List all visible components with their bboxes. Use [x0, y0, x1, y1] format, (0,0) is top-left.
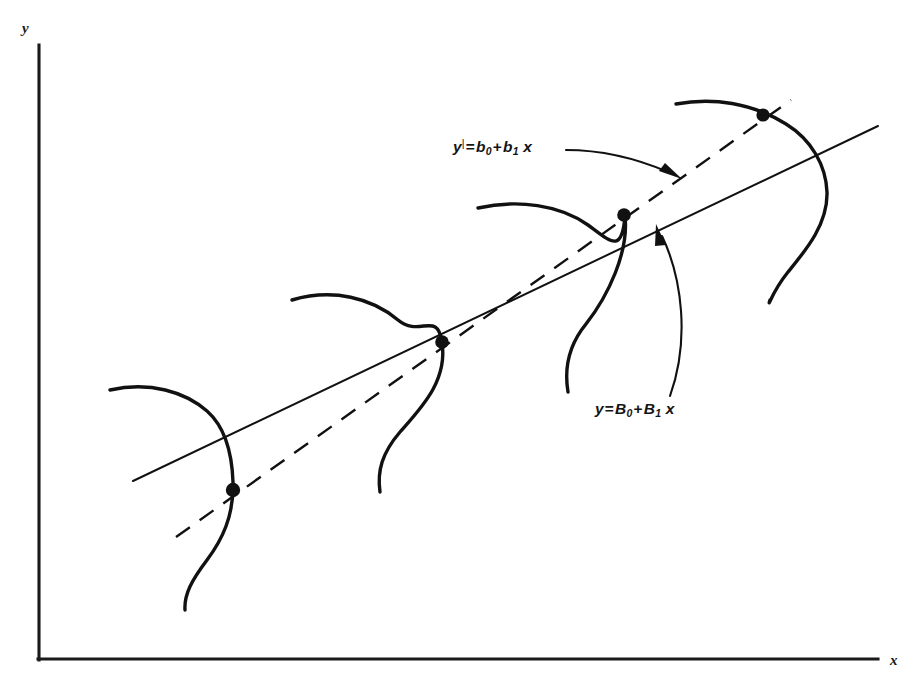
fitted-line-equation-label: y|=b0+b1 x	[453, 137, 532, 157]
conditional-mean-points-group	[226, 108, 770, 497]
distribution-curves-group	[110, 101, 827, 610]
x-axis-label: x	[889, 652, 898, 668]
eq1-b1: b	[503, 138, 513, 155]
true-line-equation-label: y=B0+B1 x	[595, 400, 675, 419]
mean-point-4	[756, 108, 769, 121]
eq1-y: y	[453, 138, 462, 155]
dashed-regression-line	[176, 100, 791, 537]
eq1-b0-sub: 0	[486, 145, 492, 157]
eq2-y: y	[595, 400, 604, 417]
eq2-b1: B	[644, 400, 655, 417]
eq1-b0: b	[476, 138, 486, 155]
conditional-distribution-4	[676, 101, 827, 303]
y-axis-label: y	[20, 20, 29, 36]
leader-curve-dashed	[566, 150, 668, 172]
leader-arrow-to-solid-line	[655, 224, 682, 396]
eq1-plus: +	[492, 138, 503, 155]
eq2-b0: B	[615, 400, 626, 417]
eq2-plus: +	[633, 400, 644, 417]
regression-diagram-svg: y x	[0, 0, 915, 695]
eq2-b0-sub: 0	[627, 407, 633, 419]
eq2-equals: =	[604, 400, 615, 417]
arrow-head-dashed	[659, 163, 682, 179]
eq1-x: x	[523, 138, 532, 155]
eq2-x: x	[666, 400, 675, 417]
mean-point-2	[435, 335, 449, 349]
conditional-distribution-1	[110, 387, 233, 610]
leader-arrow-to-dashed-line	[566, 150, 682, 179]
leader-curve-solid	[662, 236, 682, 396]
solid-regression-line	[133, 126, 878, 481]
figure-root: y x	[0, 0, 915, 695]
mean-point-3	[617, 208, 631, 222]
eq1-equals: =	[465, 138, 476, 155]
eq2-b1-sub: 1	[655, 407, 661, 419]
mean-point-1	[226, 483, 240, 497]
eq1-b1-sub: 1	[513, 145, 519, 157]
